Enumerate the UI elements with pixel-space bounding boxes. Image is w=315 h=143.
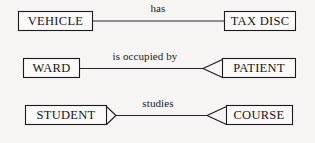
relationship-row-student-studies-course: STUDENT COURSE studies: [26, 97, 293, 125]
relationship-row-ward-is-occupied-by-patient: WARD PATIENT is occupied by: [24, 50, 296, 78]
entity-box-course[interactable]: COURSE: [227, 106, 293, 125]
relationship-label-studies: studies: [142, 97, 173, 109]
relationship-row-vehicle-has-tax-disc: VEHICLE TAX DISC has: [19, 2, 296, 31]
relationship-label-is-occupied-by: is occupied by: [113, 50, 178, 62]
entity-label-ward: WARD: [32, 61, 70, 75]
entity-label-course: COURSE: [233, 108, 284, 122]
er-diagram-canvas: VEHICLE TAX DISC has WARD: [0, 0, 315, 143]
entity-label-student: STUDENT: [36, 108, 95, 122]
entity-label-vehicle: VEHICLE: [28, 14, 84, 28]
cardinality-chevron-left-icon-patient: [203, 60, 223, 78]
entity-box-patient[interactable]: PATIENT: [223, 59, 296, 78]
cardinality-chevron-left-icon-course: [207, 107, 227, 125]
entity-box-ward[interactable]: WARD: [24, 59, 80, 78]
cardinality-chevron-right-icon-student: [107, 107, 117, 125]
entity-box-tax-disc[interactable]: TAX DISC: [225, 12, 296, 31]
er-diagram-svg: VEHICLE TAX DISC has WARD: [0, 0, 315, 143]
entity-box-student[interactable]: STUDENT: [26, 106, 107, 125]
entity-label-tax-disc: TAX DISC: [231, 14, 290, 28]
relationship-label-has: has: [151, 2, 166, 14]
entity-label-patient: PATIENT: [233, 61, 285, 75]
entity-box-vehicle[interactable]: VEHICLE: [19, 12, 93, 31]
